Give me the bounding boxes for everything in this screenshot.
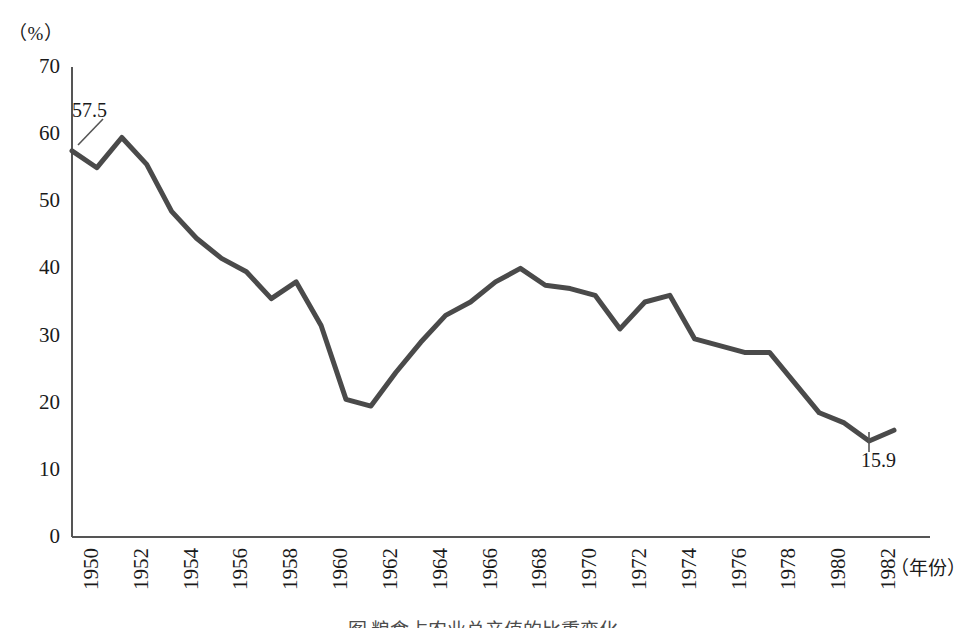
figure-caption: 图 粮食占农业总产值的比重变化	[0, 620, 966, 628]
x-axis-tick-1964: 1964	[430, 548, 451, 590]
x-axis-tick-1974: 1974	[679, 548, 700, 590]
x-axis-tick-1962: 1962	[380, 548, 401, 590]
annotation-leader-line-first	[78, 119, 103, 145]
annotation-first-value: 57.5	[72, 100, 107, 120]
x-axis-tick-labels: 1950195219541956195819601962196419661968…	[0, 548, 966, 608]
x-axis-tick-1952: 1952	[131, 548, 152, 590]
x-axis-tick-1968: 1968	[529, 548, 550, 590]
x-axis-tick-1958: 1958	[280, 548, 301, 590]
x-axis-tick-1966: 1966	[480, 548, 501, 590]
x-axis-tick-1970: 1970	[579, 548, 600, 590]
x-axis-tick-1956: 1956	[230, 548, 251, 590]
x-axis-tick-1980: 1980	[828, 548, 849, 590]
x-axis-tick-1972: 1972	[629, 548, 650, 590]
figure: （%） 706050403020100 57.5 15.9 1950195219…	[0, 0, 966, 628]
x-axis-tick-1960: 1960	[330, 548, 351, 590]
x-axis-tick-1978: 1978	[778, 548, 799, 590]
axis-lines	[72, 67, 930, 537]
data-series-line	[72, 138, 894, 442]
x-axis-unit-label: （年份）	[890, 553, 966, 580]
x-axis-tick-1950: 1950	[81, 548, 102, 590]
x-axis-tick-1954: 1954	[181, 548, 202, 590]
x-axis-tick-1976: 1976	[729, 548, 750, 590]
chart-plot-area	[0, 0, 966, 628]
annotation-last-value: 15.9	[861, 450, 896, 470]
